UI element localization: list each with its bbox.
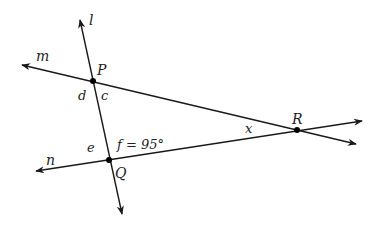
point-R — [294, 127, 300, 133]
line-l — [80, 20, 122, 214]
angle-label-f: f = 95° — [116, 137, 164, 152]
angle-label-d: d — [78, 88, 86, 103]
line-label-m: m — [36, 48, 49, 64]
line-label-n: n — [46, 152, 55, 168]
point-P — [90, 78, 96, 84]
point-label-Q: Q — [115, 165, 127, 181]
line-n — [36, 121, 362, 171]
geometry-diagram: l m n P Q R d c e f = 95° x — [0, 0, 383, 239]
line-m — [22, 65, 356, 144]
angle-label-x: x — [245, 121, 253, 136]
angle-label-e: e — [87, 140, 95, 155]
point-Q — [106, 157, 112, 163]
point-label-R: R — [291, 111, 303, 127]
line-label-l: l — [89, 12, 93, 28]
angle-label-c: c — [101, 88, 109, 103]
point-label-P: P — [96, 62, 107, 78]
